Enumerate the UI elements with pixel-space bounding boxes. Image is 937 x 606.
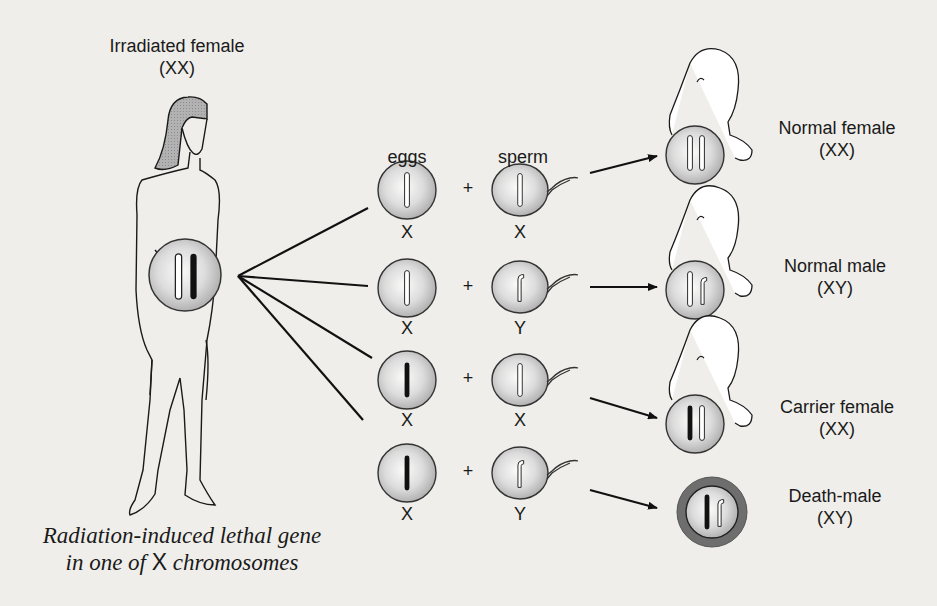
embryo-normal-female (666, 49, 752, 184)
x-chromosome-normal (175, 254, 181, 299)
plus-sign: + (453, 178, 483, 199)
sperm-label: Y (505, 504, 535, 525)
zygote-dead-male (677, 477, 747, 547)
embryo-normal-male (666, 186, 752, 319)
egg-label: X (392, 410, 422, 431)
plus-sign: + (453, 276, 483, 297)
x-chromosome-lethal (190, 254, 196, 299)
outcome-normal-female: Normal female (XX) (767, 117, 907, 161)
egg-label: X (392, 318, 422, 339)
female-cell (149, 239, 221, 311)
sperm-header: sperm (488, 146, 558, 168)
sperm-label: X (505, 410, 535, 431)
outcome-carrier-female: Carrier female (XX) (767, 396, 907, 440)
outcome-death-male: Death-male (XY) (780, 485, 890, 529)
sperm-label: X (505, 222, 535, 243)
embryo-carrier-female (666, 316, 752, 453)
caption: Radiation-induced lethal gene in one of … (22, 522, 342, 576)
gamete-fan-lines (238, 208, 372, 420)
egg-label: X (392, 222, 422, 243)
female-title: Irradiated female (XX) (102, 35, 252, 79)
outcome-arrows (590, 156, 657, 508)
plus-sign: + (453, 368, 483, 389)
outcome-normal-male: Normal male (XY) (775, 255, 895, 299)
sperm-label: Y (505, 318, 535, 339)
plus-sign: + (453, 461, 483, 482)
eggs-header: eggs (380, 146, 434, 168)
egg-label: X (392, 504, 422, 525)
